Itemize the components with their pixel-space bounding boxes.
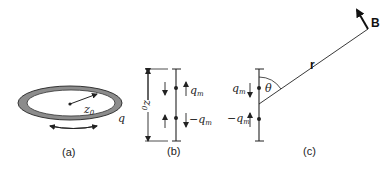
bottom-charge-dot — [257, 117, 261, 121]
top-charge-label: qm — [190, 84, 204, 98]
dipole-figure: z0 q (a) z0 qm −qm (b) qm −qm — [0, 0, 389, 171]
panel-b: z0 qm −qm (b) — [140, 69, 212, 157]
bottom-charge-dot — [174, 116, 178, 120]
field-vector-arrow — [357, 10, 368, 29]
panel-a: z0 q (a) — [18, 86, 125, 158]
caption-b: (b) — [167, 145, 180, 157]
top-charge-dot — [257, 86, 261, 90]
position-vector-label: r — [310, 58, 315, 72]
caption-a: (a) — [62, 146, 75, 158]
angle-label: θ — [265, 82, 272, 95]
top-charge-label: qm — [232, 82, 246, 96]
bottom-charge-label: −qm — [189, 113, 212, 127]
panel-c: qm −qm r θ B (c) — [227, 10, 380, 157]
charge-label: q — [118, 112, 125, 125]
separation-label: z0 — [140, 99, 154, 111]
field-label: B — [371, 16, 380, 30]
top-charge-dot — [174, 86, 178, 90]
caption-c: (c) — [303, 145, 316, 157]
bottom-charge-label: −qm — [227, 112, 250, 126]
circulation-arrow — [50, 126, 97, 129]
